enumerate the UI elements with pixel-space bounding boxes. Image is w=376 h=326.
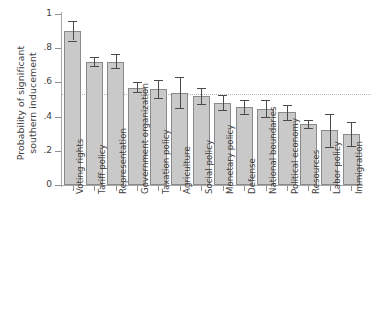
- y-axis-title-line-1: Probability of significant: [14, 46, 26, 161]
- error-bar-cap-lower: [154, 98, 163, 99]
- y-tick-label: .8: [0, 42, 52, 52]
- error-bar-cap-upper: [261, 100, 270, 101]
- x-tick-label: Government organization: [141, 83, 150, 194]
- x-tick-mark: [180, 186, 181, 191]
- y-tick-label: 1: [0, 8, 52, 18]
- x-tick-label: National boundaries: [269, 106, 278, 194]
- x-tick-mark: [116, 186, 117, 191]
- x-tick-mark: [351, 186, 352, 191]
- x-tick-mark: [137, 186, 138, 191]
- x-tick-mark: [73, 186, 74, 191]
- error-bar-cap-upper: [197, 88, 206, 89]
- x-tick-label: Voting rights: [76, 139, 85, 194]
- error-bar: [116, 54, 117, 68]
- error-bar: [244, 100, 245, 115]
- error-bar: [158, 80, 159, 98]
- error-bar: [223, 95, 224, 110]
- error-bar-cap-upper: [304, 120, 313, 121]
- y-axis-title-line-2: southern inducement: [27, 52, 39, 154]
- error-bar: [287, 105, 288, 120]
- x-tick-label: Labor policy: [333, 141, 342, 194]
- error-bar-cap-lower: [68, 41, 77, 42]
- y-tick-mark: [55, 14, 61, 15]
- y-tick-label: .6: [0, 76, 52, 86]
- y-tick-mark: [55, 117, 61, 118]
- error-bar-cap-upper: [218, 95, 227, 96]
- x-tick-label: Political economy: [291, 118, 300, 194]
- error-bar: [308, 120, 309, 128]
- error-bar-cap-lower: [175, 108, 184, 109]
- x-tick-mark: [266, 186, 267, 191]
- y-tick-mark: [55, 48, 61, 49]
- error-bar-cap-upper: [90, 57, 99, 58]
- error-bar: [73, 21, 74, 41]
- error-bar: [330, 114, 331, 146]
- y-tick-label: .4: [0, 111, 52, 121]
- error-bar-cap-lower: [304, 128, 313, 129]
- error-bar: [266, 100, 267, 118]
- x-tick-label: Defense: [248, 158, 257, 194]
- y-tick-mark: [55, 82, 61, 83]
- error-bar-cap-upper: [283, 105, 292, 106]
- x-tick-mark: [330, 186, 331, 191]
- error-bar: [201, 88, 202, 103]
- error-bar-cap-upper: [154, 80, 163, 81]
- error-bar-cap-upper: [175, 77, 184, 78]
- x-tick-label: Monetary policy: [226, 125, 235, 194]
- x-tick-mark: [287, 186, 288, 191]
- error-bar: [137, 82, 138, 91]
- y-tick-mark: [55, 151, 61, 152]
- error-bar-cap-lower: [90, 66, 99, 67]
- x-tick-mark: [308, 186, 309, 191]
- x-tick-label: Tariff policy: [98, 144, 107, 194]
- error-bar: [351, 122, 352, 146]
- x-tick-label: Representation: [119, 128, 128, 194]
- error-bar-cap-lower: [111, 68, 120, 69]
- error-bar-cap-lower: [218, 110, 227, 111]
- error-bar-cap-lower: [240, 114, 249, 115]
- y-tick-label: 0: [0, 179, 52, 189]
- x-tick-mark: [201, 186, 202, 191]
- x-tick-label: Resources: [312, 150, 321, 194]
- y-tick-label: .2: [0, 145, 52, 155]
- error-bar-cap-upper: [111, 54, 120, 55]
- chart-figure: Probability of significant southern indu…: [0, 0, 376, 326]
- x-tick-label: Social policy: [205, 140, 214, 194]
- error-bar: [94, 57, 95, 66]
- x-tick-mark: [244, 186, 245, 191]
- x-tick-label: Immigration: [355, 141, 364, 194]
- error-bar-cap-upper: [325, 114, 334, 115]
- error-bar-cap-upper: [347, 122, 356, 123]
- error-bar-cap-upper: [68, 21, 77, 22]
- y-tick-mark: [55, 185, 61, 186]
- x-tick-label: Agriculture: [183, 146, 192, 194]
- x-tick-label: Taxation policy: [162, 129, 171, 194]
- x-tick-mark: [94, 186, 95, 191]
- x-tick-mark: [223, 186, 224, 191]
- error-bar-cap-upper: [240, 100, 249, 101]
- x-tick-mark: [158, 186, 159, 191]
- error-bar: [180, 77, 181, 108]
- error-bar-cap-lower: [197, 104, 206, 105]
